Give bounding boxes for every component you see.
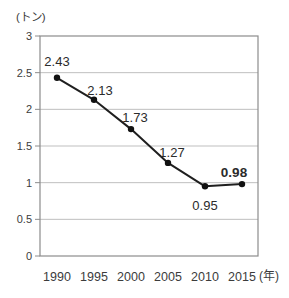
data-point-label: 1.73 (122, 110, 147, 125)
data-point-label: 2.43 (44, 54, 69, 69)
y-tick-label: 0.5 (17, 213, 32, 225)
data-line (57, 78, 242, 187)
x-tick-label: 1990 (43, 270, 71, 284)
data-point (128, 126, 134, 132)
y-tick-label: 3 (26, 30, 32, 42)
x-tick-label: 1995 (80, 270, 108, 284)
y-tick-label: 1 (26, 177, 32, 189)
y-axis-unit-label: (トン) (16, 12, 46, 24)
y-tick-label: 0 (26, 250, 32, 262)
data-point (165, 160, 171, 166)
y-tick-label: 1.5 (17, 140, 32, 152)
data-point-label: 0.95 (192, 198, 217, 213)
chart-canvas: 00.511.522.531990199520002005201020152.4… (0, 0, 289, 298)
data-point-label: 1.27 (159, 145, 184, 160)
data-point (202, 183, 208, 189)
x-axis-unit-label: (年) (259, 270, 279, 282)
x-tick-label: 2015 (228, 270, 256, 284)
y-tick-label: 2.5 (17, 67, 32, 79)
data-point-label: 0.98 (221, 165, 248, 180)
line-chart: 00.511.522.531990199520002005201020152.4… (0, 0, 289, 298)
data-point (54, 75, 60, 81)
x-tick-label: 2000 (117, 270, 145, 284)
x-tick-label: 2010 (191, 270, 219, 284)
data-point-label: 2.13 (87, 83, 112, 98)
y-tick-label: 2 (26, 103, 32, 115)
x-tick-label: 2005 (154, 270, 182, 284)
data-point (239, 181, 245, 187)
